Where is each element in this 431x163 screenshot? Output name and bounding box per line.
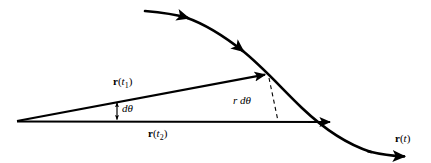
- vector-r-t2-arrow: [17, 122, 330, 123]
- label-r-t: r(t): [395, 132, 411, 145]
- label-d-theta: dθ: [122, 102, 134, 114]
- label-r-t1-paren-close: ): [129, 75, 133, 88]
- vector-trajectory-diagram: r(t1) dθ r dθ r(t2) r(t): [0, 0, 431, 163]
- diagram-background: [0, 0, 431, 163]
- label-r-t-paren-close: ): [407, 132, 411, 145]
- label-r-t2-paren-close: ): [164, 127, 168, 140]
- label-r-d-theta: r dθ: [233, 94, 252, 106]
